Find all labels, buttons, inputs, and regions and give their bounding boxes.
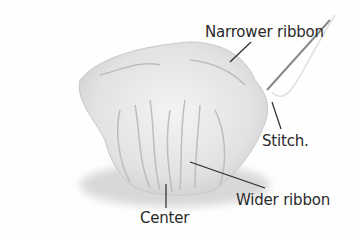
center-label: Center [140, 209, 189, 227]
stitch-label: Stitch. [262, 132, 309, 150]
wider-ribbon-label: Wider ribbon [236, 191, 330, 209]
annotated-ribbon-photo: Narrower ribbon Stitch. Wider ribbon Cen… [0, 0, 359, 238]
narrower-ribbon-label: Narrower ribbon [205, 23, 324, 41]
